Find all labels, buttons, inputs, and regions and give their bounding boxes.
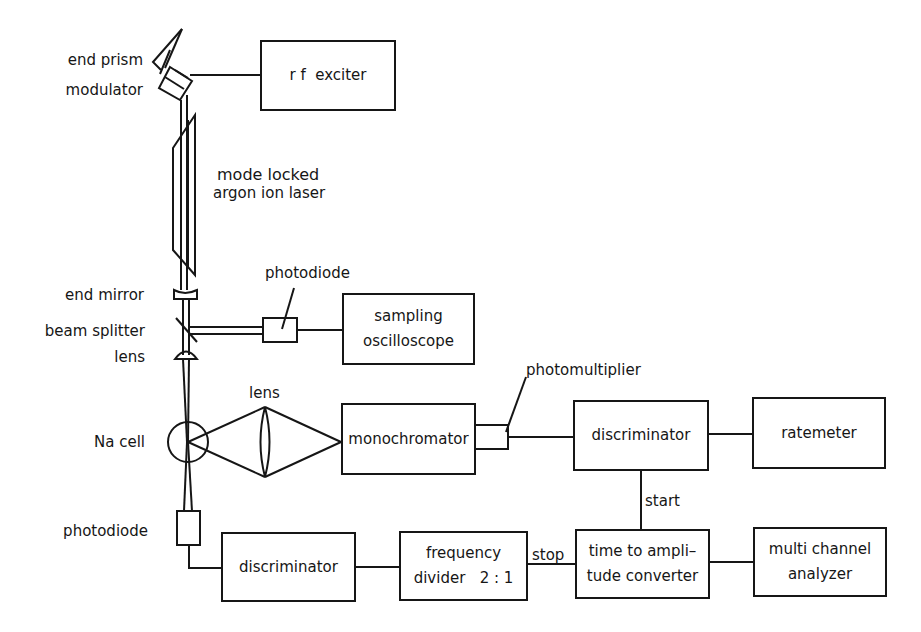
photodiode-top-icon xyxy=(263,318,297,342)
photomultiplier-label: photomultiplier xyxy=(526,361,641,379)
laser-tube-icon xyxy=(173,115,195,275)
end-prism-icon xyxy=(153,29,182,74)
sampling-oscilloscope-box: sampling oscilloscope xyxy=(342,293,475,365)
discriminator-bottom-box: discriminator xyxy=(221,532,356,602)
ratemeter-box: ratemeter xyxy=(752,397,886,469)
split-beam xyxy=(189,327,263,334)
beam-splitter-label: beam splitter xyxy=(45,322,145,340)
beam-splitter-icon xyxy=(176,318,197,342)
end-mirror-icon xyxy=(174,290,197,299)
sampling-oscilloscope-label-2: oscilloscope xyxy=(363,329,454,354)
tac-box: time to ampli– tude converter xyxy=(575,529,710,599)
photodiode-bottom-icon xyxy=(177,511,200,545)
na-cell-label: Na cell xyxy=(94,433,145,451)
mca-label-2: analyzer xyxy=(788,562,852,587)
photomultiplier-icon xyxy=(475,425,508,449)
photodiode-disc-line xyxy=(189,545,221,568)
tac-label-1: time to ampli– xyxy=(589,539,697,564)
modulator-label: modulator xyxy=(66,81,143,99)
monochromator-label: monochromator xyxy=(348,427,468,452)
end-prism-label: end prism xyxy=(68,51,143,69)
laser-label-1: mode locked xyxy=(217,166,319,184)
end-mirror-label: end mirror xyxy=(65,286,144,304)
photodiode-bottom-label: photodiode xyxy=(63,522,148,540)
frequency-divider-label-1: frequency xyxy=(426,541,501,566)
rf-exciter-label: r f exciter xyxy=(289,63,366,88)
discriminator-bottom-label: discriminator xyxy=(239,555,338,580)
photodiode-top-leader xyxy=(282,288,294,329)
lens-large-icon xyxy=(261,407,270,477)
mca-label-1: multi channel xyxy=(769,537,871,562)
start-label: start xyxy=(645,492,680,510)
discriminator-top-label: discriminator xyxy=(592,423,691,448)
lens-center-label: lens xyxy=(249,384,280,402)
ratemeter-label: ratemeter xyxy=(781,421,857,446)
monochromator-box: monochromator xyxy=(341,403,476,475)
lens-left-label: lens xyxy=(114,348,145,366)
photodiode-top-label: photodiode xyxy=(265,264,350,282)
photomultiplier-leader xyxy=(506,377,526,432)
stop-label: stop xyxy=(532,546,564,564)
sampling-oscilloscope-label-1: sampling xyxy=(374,304,443,329)
mca-box: multi channel analyzer xyxy=(753,527,887,597)
frequency-divider-label-2: divider 2 : 1 xyxy=(414,566,514,591)
tac-label-2: tude converter xyxy=(587,564,698,589)
laser-label-2: argon ion laser xyxy=(213,184,325,202)
fluorescence-rays xyxy=(188,407,341,477)
rf-exciter-box: r f exciter xyxy=(260,40,396,111)
lens-small-icon xyxy=(175,352,197,360)
discriminator-top-box: discriminator xyxy=(573,400,709,471)
experimental-setup-diagram: r f exciter sampling oscilloscope monoch… xyxy=(0,0,921,632)
beam-focus xyxy=(183,359,192,511)
frequency-divider-box: frequency divider 2 : 1 xyxy=(399,531,528,601)
